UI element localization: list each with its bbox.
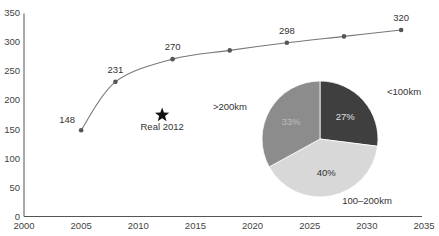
data-point [285, 41, 290, 46]
data-point [113, 80, 118, 85]
pie-category-label: 100–200km [342, 195, 392, 206]
x-tick-label: 2010 [128, 220, 149, 231]
y-tick-label: 250 [4, 65, 20, 76]
x-tick-label: 2005 [71, 220, 92, 231]
data-label: 270 [165, 41, 181, 52]
pie-chart: 27%<100km40%100–200km33%>200km [213, 81, 421, 206]
star-icon [155, 108, 169, 122]
x-tick-label: 2020 [242, 220, 263, 231]
y-tick-label: 350 [4, 7, 20, 18]
pie-value-label: 40% [317, 167, 337, 178]
data-point [399, 28, 404, 33]
pie-value-label: 27% [336, 111, 356, 122]
annotation-label: Real 2012 [140, 121, 183, 132]
data-label: 231 [107, 64, 123, 75]
data-label: 148 [59, 114, 75, 125]
x-tick-label: 2015 [185, 220, 206, 231]
y-tick-label: 300 [4, 36, 20, 47]
y-tick-label: 100 [4, 153, 20, 164]
real-2012-marker: Real 2012 [140, 108, 183, 133]
x-tick-label: 2025 [299, 220, 320, 231]
x-tick-label: 2030 [356, 220, 377, 231]
data-point [170, 57, 175, 62]
y-tick-label: 150 [4, 124, 20, 135]
x-tick-label: 2035 [413, 220, 434, 231]
data-label: 298 [279, 25, 295, 36]
data-point [79, 128, 84, 133]
data-point [227, 48, 232, 53]
pie-category-label: >200km [213, 101, 247, 112]
data-label: 320 [393, 12, 409, 23]
x-tick-label: 2000 [13, 220, 34, 231]
y-tick-label: 50 [9, 182, 20, 193]
pie-value-label: 33% [282, 116, 302, 127]
data-point [342, 34, 347, 39]
y-tick-label: 200 [4, 94, 20, 105]
pie-category-label: <100km [387, 86, 421, 97]
chart: 0501001502002503003502000200520102015202… [0, 0, 439, 236]
